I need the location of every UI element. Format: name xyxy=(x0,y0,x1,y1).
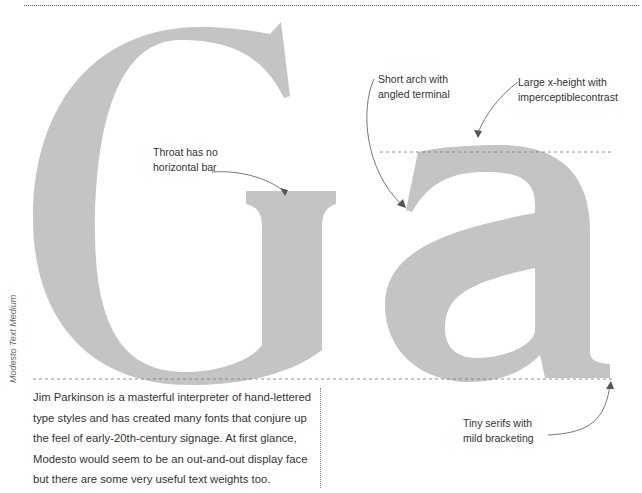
typeface-label: Modesto Text Medium xyxy=(8,295,18,383)
glyph-a xyxy=(385,145,610,382)
glyph-G xyxy=(33,22,336,385)
annotation-serifs: Tiny serifs with mild bracketing xyxy=(463,416,534,446)
column-dotted-rule xyxy=(320,388,321,488)
throat-arrow xyxy=(212,172,285,192)
body-paragraph: Jim Parkinson is a masterful interpreter… xyxy=(33,387,313,490)
annotation-throat: Throat has no horizontal bar xyxy=(153,145,218,175)
serifs-arrow xyxy=(548,385,610,435)
annotation-xheight: Large x-height with imperceptiblecontras… xyxy=(518,75,618,105)
annotation-arch: Short arch with angled terminal xyxy=(378,72,450,102)
xheight-arrow xyxy=(478,82,518,133)
